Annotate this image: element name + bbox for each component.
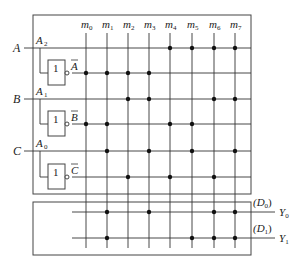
connection-dot: [105, 71, 109, 75]
inverter-input-wire: [40, 48, 48, 73]
minterm-label-m5: m5: [187, 18, 199, 32]
connection-dot: [84, 122, 88, 126]
gate-label: 1: [53, 113, 59, 125]
inverted-label-b: B: [71, 111, 78, 123]
inverter-a: 1A: [40, 48, 78, 85]
connection-dot: [105, 122, 109, 126]
connection-dot: [233, 46, 237, 50]
output-label-y1: Y1: [279, 232, 289, 246]
connection-dot: [105, 210, 109, 214]
svg-text:A: A: [35, 137, 43, 149]
connection-dot: [233, 97, 237, 101]
minterm-label-m1: m1: [102, 18, 114, 32]
connection-dot: [168, 46, 172, 50]
connection-dot: [168, 122, 172, 126]
minterm-label-m7: m7: [230, 18, 242, 32]
connection-dot: [147, 71, 151, 75]
or-array-box: [33, 202, 251, 255]
data-label-d1: (D1): [253, 222, 272, 236]
gate-label: 1: [53, 166, 59, 178]
connection-dot: [126, 175, 130, 179]
inverter-input-wire: [40, 151, 48, 177]
inverter-c: 1C: [40, 151, 79, 189]
svg-text:A: A: [35, 85, 43, 97]
connection-dot: [212, 236, 216, 240]
connection-dot: [212, 46, 216, 50]
inversion-bubble-icon: [65, 71, 69, 75]
inverted-label-a: A: [70, 60, 78, 72]
inverter-input-wire: [40, 99, 48, 124]
input-label-a: A: [12, 41, 21, 55]
connection-dot: [147, 97, 151, 101]
svg-text:1: 1: [44, 91, 48, 99]
address-label-a1: A 1: [35, 85, 48, 99]
connection-dot: [147, 210, 151, 214]
input-label-b: B: [13, 92, 21, 106]
connection-dot: [126, 71, 130, 75]
and-array-box: [33, 15, 251, 194]
connection-dot: [233, 149, 237, 153]
minterm-label-m3: m3: [144, 18, 156, 32]
minterm-label-m2: m2: [123, 18, 135, 32]
minterm-label-m0: m0: [81, 18, 93, 32]
connection-dot: [212, 210, 216, 214]
pla-diagram: A B C A 2 A 1 A 0 1A1B1C m0m1m2m3m4m5m6m…: [0, 0, 306, 268]
gate-label: 1: [53, 62, 59, 74]
connection-dot: [190, 122, 194, 126]
input-label-c: C: [13, 144, 22, 158]
svg-text:A: A: [35, 34, 43, 46]
svg-text:0: 0: [44, 143, 48, 151]
connection-dot: [126, 97, 130, 101]
output-label-y0: Y0: [279, 206, 289, 220]
minterm-label-m4: m4: [165, 18, 177, 32]
inversion-bubble-icon: [65, 122, 69, 126]
connection-dot: [233, 236, 237, 240]
connection-dot: [147, 149, 151, 153]
inverter-b: 1B: [40, 99, 78, 136]
connection-dot: [105, 149, 109, 153]
connection-dot: [233, 210, 237, 214]
connection-dot: [190, 236, 194, 240]
inversion-bubble-icon: [65, 175, 69, 179]
connection-dot: [105, 236, 109, 240]
address-label-a2: A 2: [35, 34, 48, 48]
connection-dot: [190, 149, 194, 153]
connection-dot: [190, 46, 194, 50]
svg-text:2: 2: [44, 40, 48, 48]
connection-dot: [84, 71, 88, 75]
address-label-a0: A 0: [35, 137, 48, 151]
minterm-label-m6: m6: [209, 18, 221, 32]
inverted-label-c: C: [71, 164, 79, 176]
connection-dot: [212, 175, 216, 179]
connection-dot: [212, 97, 216, 101]
connection-dot: [168, 175, 172, 179]
data-label-d0: (D0): [253, 196, 272, 210]
